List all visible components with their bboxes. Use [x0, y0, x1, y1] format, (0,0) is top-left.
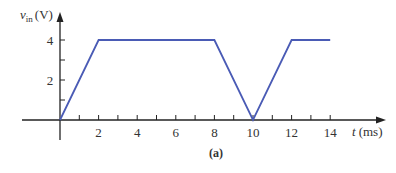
x-tick-label: 2	[95, 125, 102, 140]
y-tick-label: 4	[47, 33, 54, 48]
x-tick-label: 8	[211, 125, 218, 140]
x-axis-label: t(ms)	[352, 124, 382, 139]
x-axis-arrow-icon	[376, 117, 386, 124]
x-tick-label: 14	[324, 125, 338, 140]
y-axis-arrow-icon	[57, 12, 64, 22]
chart: 2468101214 24 vin(V) t(ms) (a)	[0, 0, 396, 173]
x-ticks: 2468101214	[79, 115, 337, 140]
y-ticks: 24	[47, 33, 65, 100]
x-tick-label: 10	[247, 125, 260, 140]
y-axis-label: vin(V)	[20, 7, 53, 24]
x-tick-label: 6	[173, 125, 180, 140]
x-tick-label: 4	[134, 125, 141, 140]
figure-caption: (a)	[209, 146, 223, 160]
y-tick-label: 2	[47, 73, 54, 88]
x-tick-label: 12	[285, 125, 298, 140]
series-line-vin	[60, 40, 330, 120]
